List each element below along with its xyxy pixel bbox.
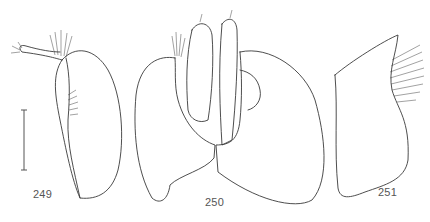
figure-plate	[0, 0, 430, 222]
figure-label-249: 249	[33, 188, 52, 200]
figure-label-250: 250	[205, 196, 224, 208]
drawing-249	[11, 30, 122, 198]
drawing-250-left-process	[187, 24, 213, 122]
figure-label-251: 251	[378, 186, 397, 198]
drawing-250	[135, 10, 324, 204]
drawing-251	[335, 35, 424, 197]
drawing-250-right-valve	[216, 51, 324, 204]
drawing-250-setae	[172, 10, 232, 57]
scale-bar	[21, 110, 27, 170]
drawing-250-left-valve	[135, 57, 215, 201]
drawing-251-body	[335, 35, 408, 197]
drawing-250-right-process	[220, 19, 238, 145]
drawing-250-inner-lobe	[240, 70, 260, 110]
drawing-249-process	[20, 45, 62, 60]
drawing-249-body	[55, 51, 121, 199]
